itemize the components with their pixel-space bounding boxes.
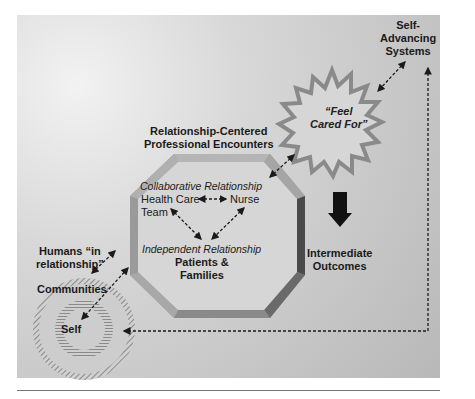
label-intermediate-outcomes: Intermediate Outcomes: [307, 247, 372, 273]
text-line: relationship”: [36, 258, 104, 271]
text-line: Advancing: [380, 32, 436, 45]
label-nurse: Nurse: [230, 193, 259, 206]
label-health-care-team: Health Care Team: [141, 193, 200, 219]
down-arrow-icon: [328, 192, 352, 227]
label-collaborative-relationship: Collaborative Relationship: [140, 180, 262, 193]
label-self-advancing: Self- Advancing Systems: [380, 19, 436, 58]
text-line: Outcomes: [307, 260, 372, 273]
octagon-frame: [130, 154, 305, 318]
label-feel-cared-for: “Feel Cared For”: [310, 105, 367, 131]
label-self: Self: [61, 323, 81, 336]
text-line: Cared For”: [310, 118, 367, 131]
label-independent-relationship: Independent Relationship: [142, 243, 261, 256]
bottom-divider: [17, 390, 440, 391]
text-line: “Feel: [310, 105, 367, 118]
text-line: Families: [175, 269, 229, 282]
label-humans-in-relationship: Humans “in relationship”: [36, 245, 104, 271]
text-line: Health Care: [141, 193, 200, 206]
label-encounters-title: Relationship-Centered Professional Encou…: [144, 125, 274, 151]
text-line: Humans “in: [36, 245, 104, 258]
label-patients-families: Patients & Families: [175, 256, 229, 282]
arrow-self-advancing-feel: [378, 62, 405, 91]
text-line: Team: [141, 206, 200, 219]
text-line: Professional Encounters: [144, 138, 274, 151]
text-line: Relationship-Centered: [144, 125, 274, 138]
label-communities: Communities: [37, 283, 107, 296]
text-line: Patients &: [175, 256, 229, 269]
text-line: Systems: [380, 45, 436, 58]
text-line: Intermediate: [307, 247, 372, 260]
text-line: Self-: [380, 19, 436, 32]
